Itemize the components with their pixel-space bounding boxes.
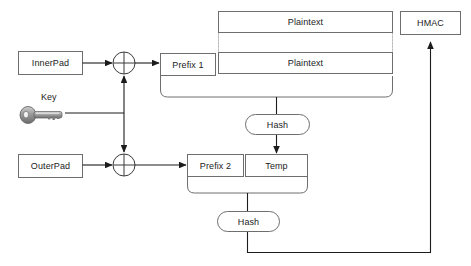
diagram-canvas [0,0,471,266]
key-icon [20,107,62,124]
hmac-diagram: InnerPad OuterPad Key Prefix 1 Prefix 2 … [0,0,471,266]
bracket-upper [161,76,393,97]
xor-lower-icon [113,154,135,176]
hmac-box [401,12,461,35]
prefix1-box [161,54,216,76]
prefix2-box [188,155,244,177]
hash-lower-shape [218,212,280,232]
innerpad-box [19,52,83,75]
temp-box [246,155,308,177]
key-label: Key [41,92,57,102]
plaintext-top-box [219,12,393,33]
hash-upper-shape [246,115,310,135]
bracket-lower [188,177,308,193]
plaintext-bottom-box [219,53,393,74]
outerpad-box [19,155,83,178]
xor-upper-icon [113,52,135,74]
